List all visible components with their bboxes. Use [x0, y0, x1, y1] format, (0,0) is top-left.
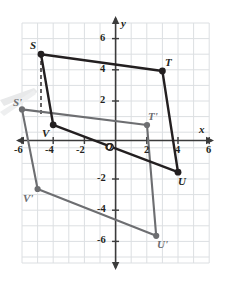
y-tick-label-4: 4 — [100, 64, 105, 75]
coordinate-plane-figure: x y O -6 -4 -2 2 4 6 6 4 2 -2 -4 -6 S T … — [0, 0, 229, 284]
vertex-dot-T-prime — [144, 122, 150, 128]
vertex-label-U: U — [178, 176, 186, 187]
y-tick-label-neg4: -4 — [97, 204, 106, 215]
vertex-dot-S — [38, 51, 45, 58]
vertex-label-T-prime: T' — [148, 111, 158, 122]
x-tick-label-neg6: -6 — [14, 145, 23, 156]
x-tick-label-2: 2 — [144, 145, 149, 156]
vertex-label-S: S — [30, 40, 36, 51]
vertex-label-S-prime: S' — [13, 97, 22, 108]
vertex-label-V-prime: V' — [23, 193, 33, 204]
vertex-dot-V-prime — [35, 186, 41, 192]
y-tick-label-neg6: -6 — [97, 235, 106, 246]
x-tick-label-neg4: -4 — [45, 145, 54, 156]
vertex-dot-V — [50, 121, 57, 128]
y-axis-label: y — [121, 18, 126, 29]
origin-label: O — [105, 142, 113, 153]
y-tick-label-neg2: -2 — [97, 173, 106, 184]
vertex-dot-T — [159, 68, 166, 75]
x-tick-label-6: 6 — [206, 145, 211, 156]
vertex-label-V: V — [42, 128, 49, 139]
x-tick-label-neg2: -2 — [76, 145, 85, 156]
y-tick-label-2: 2 — [100, 95, 105, 106]
vertex-label-U-prime: U' — [157, 239, 168, 250]
y-tick-label-6: 6 — [100, 33, 105, 44]
vertex-label-T: T — [165, 57, 172, 68]
x-axis-label: x — [199, 124, 205, 135]
x-tick-label-4: 4 — [175, 145, 180, 156]
